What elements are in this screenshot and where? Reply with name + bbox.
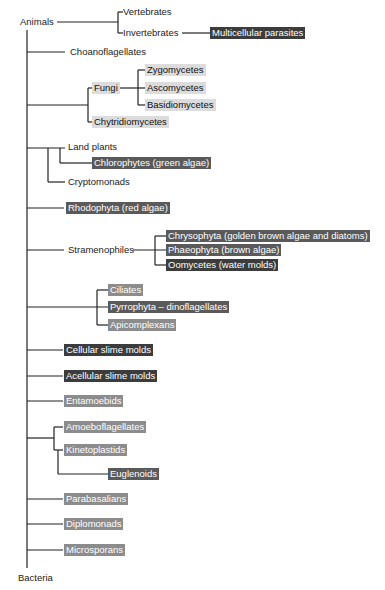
node-rhodophyta: Rhodophyta (red algae) (66, 202, 170, 214)
node-land-plants: Land plants (66, 141, 119, 153)
node-chrysophyta: Chrysophyta (golden brown algae and diat… (166, 230, 370, 242)
node-chlorophytes: Chlorophytes (green algae) (92, 157, 211, 169)
node-pyrrophyta: Pyrrophyta – dinoflagellates (108, 301, 229, 313)
node-phaeophyta: Phaeophyta (brown algae) (166, 244, 281, 256)
node-parabasalians: Parabasalians (64, 493, 128, 505)
node-fungi: Fungi (92, 82, 120, 94)
node-vertebrates: Vertebrates (121, 6, 174, 18)
node-cryptomonads: Cryptomonads (66, 176, 132, 188)
node-animals: Animals (18, 16, 56, 28)
node-euglenoids: Euglenoids (108, 468, 159, 480)
node-chytridiomycetes: Chytridiomycetes (92, 116, 169, 128)
node-choanoflagellates: Choanoflagellates (68, 46, 148, 58)
node-ciliates: Ciliates (108, 284, 143, 296)
node-entamoebids: Entamoebids (64, 395, 123, 407)
node-bacteria: Bacteria (16, 572, 55, 584)
node-invertebrates: Invertebrates (121, 27, 180, 39)
node-basidiomycetes: Basidiomycetes (145, 99, 216, 111)
node-amoeboflagellates: Amoeboflagellates (64, 421, 146, 433)
node-cellular-slime-molds: Cellular slime molds (64, 344, 153, 356)
node-kinetoplastids: Kinetoplastids (64, 444, 127, 456)
node-acellular-slime-molds: Acellular slime molds (64, 370, 157, 382)
node-ascomycetes: Ascomycetes (145, 82, 206, 94)
node-stramenophiles: Stramenophiles (66, 244, 136, 256)
node-zygomycetes: Zygomycetes (145, 64, 206, 76)
node-oomycetes: Oomycetes (water molds) (166, 259, 278, 271)
node-diplomonads: Diplomonads (64, 518, 123, 530)
node-multicellular-parasites: Multicellular parasites (210, 27, 305, 39)
node-apicomplexans: Apicomplexans (108, 319, 176, 331)
node-microsporans: Microsporans (64, 544, 125, 556)
